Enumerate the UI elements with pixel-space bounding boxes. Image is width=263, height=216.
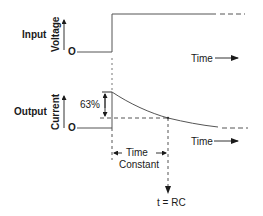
voltage-axis-label: Voltage [51,17,61,52]
output-baseline [77,92,112,128]
percent-63-label: 63% [80,100,100,110]
time-constant-line2: Constant [119,160,159,170]
input-time-label: Time [191,54,213,64]
rc-formula-label: t = RC [157,198,186,208]
output-origin-label: O [68,123,76,133]
input-origin-label: O [68,47,76,57]
percent-63-marker [102,92,112,116]
output-time-label: Time [191,137,213,147]
time-constant-line1: Time [126,148,148,158]
input-step-waveform [77,14,245,52]
output-row-label: Output [14,107,47,117]
current-axis-label: Current [51,94,61,130]
input-row-label: Input [22,30,46,40]
rc-down-arrowhead [165,186,171,194]
output-decay-curve [112,92,218,127]
